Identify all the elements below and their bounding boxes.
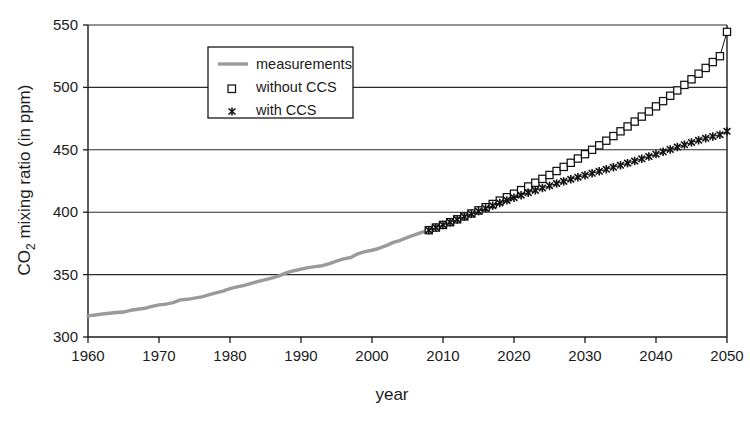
- data-point-marker: [631, 118, 638, 125]
- x-tick-label-2010: 2010: [426, 347, 459, 364]
- x-tick-label-1960: 1960: [71, 347, 104, 364]
- data-point-marker: [688, 138, 695, 146]
- x-tick-label-1980: 1980: [213, 347, 246, 364]
- data-point-marker: [695, 70, 702, 77]
- data-series-group: [88, 28, 731, 316]
- y-tick-label-450: 450: [53, 141, 78, 158]
- data-point-marker: [724, 127, 731, 135]
- data-point-marker: [581, 151, 588, 158]
- data-point-marker: [617, 128, 624, 135]
- y-tick-label-550: 550: [53, 16, 78, 33]
- data-point-marker: [567, 175, 574, 183]
- y-tick-label-350: 350: [53, 266, 78, 283]
- data-point-marker: [525, 189, 532, 197]
- data-point-marker: [532, 186, 539, 194]
- x-tick-label-2000: 2000: [355, 347, 388, 364]
- data-point-marker: [638, 155, 645, 163]
- data-point-marker: [553, 179, 560, 187]
- data-point-marker: [560, 163, 567, 170]
- legend: measurements without CCS with CCS: [208, 47, 353, 118]
- y-axis-title: CO2 mixing ratio (in ppm): [15, 85, 38, 276]
- legend-swatch-square-open-icon: [228, 85, 236, 93]
- x-axis-ticks: 1960197019801990200020102020203020402050: [71, 337, 743, 364]
- data-point-marker: [546, 171, 553, 178]
- data-point-marker: [624, 123, 631, 130]
- data-point-marker: [645, 108, 652, 115]
- data-point-marker: [518, 191, 525, 199]
- data-point-marker: [702, 134, 709, 142]
- data-point-marker: [560, 177, 567, 185]
- data-point-marker: [717, 130, 724, 138]
- y-tick-label-400: 400: [53, 203, 78, 220]
- data-point-marker: [589, 169, 596, 177]
- y-tick-label-300: 300: [53, 328, 78, 345]
- data-point-marker: [610, 132, 617, 139]
- x-tick-label-2020: 2020: [497, 347, 530, 364]
- chart-canvas: 300350400450500550 196019701980199020002…: [0, 0, 750, 424]
- data-point-marker: [716, 53, 723, 60]
- data-point-marker: [681, 81, 688, 88]
- series-without-ccs: [425, 28, 730, 234]
- x-axis-title: year: [375, 385, 408, 404]
- data-point-marker: [603, 137, 610, 144]
- data-point-marker: [646, 152, 653, 160]
- data-point-marker: [631, 157, 638, 165]
- data-point-marker: [652, 103, 659, 110]
- data-point-marker: [674, 143, 681, 151]
- data-point-marker: [575, 173, 582, 181]
- data-point-marker: [638, 113, 645, 120]
- data-point-marker: [681, 140, 688, 148]
- y-axis-title-pre: CO: [15, 250, 34, 276]
- x-tick-label-2030: 2030: [568, 347, 601, 364]
- series-with-ccs: [425, 127, 730, 234]
- data-point-marker: [709, 58, 716, 65]
- data-point-marker: [539, 175, 546, 182]
- data-point-marker: [695, 136, 702, 144]
- data-point-marker: [653, 150, 660, 158]
- data-point-marker: [660, 148, 667, 156]
- data-point-marker: [567, 159, 574, 166]
- series-line-measurements: [88, 230, 429, 316]
- data-point-marker: [660, 98, 667, 105]
- legend-label-with-ccs: with CCS: [255, 102, 316, 118]
- data-point-marker: [709, 132, 716, 140]
- data-point-marker: [610, 163, 617, 171]
- data-point-marker: [667, 92, 674, 99]
- data-point-marker: [617, 161, 624, 169]
- data-point-marker: [589, 146, 596, 153]
- data-point-marker: [539, 184, 546, 192]
- data-point-marker: [553, 167, 560, 174]
- data-point-marker: [624, 159, 631, 167]
- data-point-marker: [582, 171, 589, 179]
- data-point-marker: [532, 179, 539, 186]
- data-point-marker: [702, 64, 709, 71]
- y-axis-title-post: mixing ratio (in ppm): [15, 85, 34, 244]
- legend-label-measurements: measurements: [256, 56, 352, 72]
- data-point-marker: [603, 165, 610, 173]
- x-tick-label-2050: 2050: [710, 347, 743, 364]
- y-tick-label-500: 500: [53, 78, 78, 95]
- legend-label-without-ccs: without CCS: [255, 79, 337, 95]
- x-tick-label-2040: 2040: [639, 347, 672, 364]
- data-point-marker: [596, 142, 603, 149]
- series-measurements: [88, 230, 429, 316]
- data-point-marker: [723, 28, 730, 35]
- data-point-marker: [674, 87, 681, 94]
- x-tick-label-1990: 1990: [284, 347, 317, 364]
- data-point-marker: [596, 167, 603, 175]
- x-tick-label-1970: 1970: [142, 347, 175, 364]
- y-axis-ticks: 300350400450500550: [53, 16, 88, 345]
- data-point-marker: [546, 182, 553, 190]
- data-point-marker: [574, 155, 581, 162]
- data-point-marker: [688, 76, 695, 83]
- series-connector: [429, 32, 727, 230]
- co2-projection-chart: 300350400450500550 196019701980199020002…: [0, 0, 750, 424]
